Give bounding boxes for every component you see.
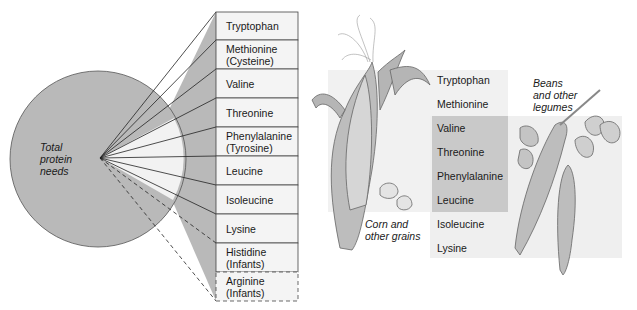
row-label: Valine <box>226 78 254 90</box>
diagram-graphics <box>0 0 637 310</box>
list-item: Lysine <box>437 242 467 254</box>
corn-label: Corn and other grains <box>365 218 420 242</box>
table-row: Arginine (Infants) <box>216 272 298 301</box>
row-label: Isoleucine <box>226 194 273 206</box>
row-label: Lysine <box>226 223 256 235</box>
label-line: legumes <box>533 101 577 113</box>
legume-label: Beans and other legumes <box>533 77 577 113</box>
table-row: Lysine <box>216 214 298 243</box>
row-label: Tryptophan <box>226 20 279 32</box>
label-line: Corn and <box>365 218 420 230</box>
list-item: Threonine <box>437 146 484 158</box>
list-item: Tryptophan <box>437 74 490 86</box>
table-row: Leucine <box>216 156 298 185</box>
table-row: Isoleucine <box>216 185 298 214</box>
label-line: needs <box>40 165 72 177</box>
list-item: Methionine <box>437 98 488 110</box>
label-line: Total <box>40 141 72 153</box>
table-row: Methionine (Cysteine) <box>216 40 298 69</box>
row-label: Histidine (Infants) <box>226 246 266 270</box>
table-row: Phenylalanine (Tyrosine) <box>216 127 298 156</box>
row-label: Leucine <box>226 165 263 177</box>
row-label: Methionine (Cysteine) <box>226 43 277 67</box>
table-row: Histidine (Infants) <box>216 243 298 272</box>
label-line: protein <box>40 153 72 165</box>
row-label: Threonine <box>226 107 273 119</box>
label-line: other grains <box>365 230 420 242</box>
list-item: Leucine <box>437 194 474 206</box>
table-row: Valine <box>216 69 298 98</box>
label-line: Beans <box>533 77 577 89</box>
total-protein-label: Total protein needs <box>40 141 72 177</box>
row-label: Phenylalanine (Tyrosine) <box>226 130 292 154</box>
table-row: Tryptophan <box>216 12 298 40</box>
table-row: Threonine <box>216 98 298 127</box>
list-item: Isoleucine <box>437 218 484 230</box>
label-line: and other <box>533 89 577 101</box>
row-label: Arginine (Infants) <box>226 275 265 299</box>
list-item: Phenylalanine <box>437 170 503 182</box>
list-item: Valine <box>437 122 465 134</box>
